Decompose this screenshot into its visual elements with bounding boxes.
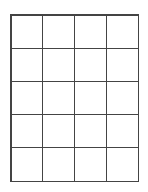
grid-cell <box>11 48 44 82</box>
grid-cell <box>11 147 44 181</box>
grid-cell <box>42 147 75 181</box>
grid-cell <box>106 81 139 115</box>
grid-cell <box>106 147 139 181</box>
grid-cell <box>106 114 139 148</box>
grid-cell <box>74 15 107 49</box>
grid-cell <box>106 15 139 49</box>
grid-cell <box>11 114 44 148</box>
grid-cell <box>42 48 75 82</box>
grid-cell <box>42 81 75 115</box>
grid-cell <box>42 114 75 148</box>
grid-cell <box>74 81 107 115</box>
empty-grid <box>10 14 139 182</box>
grid-cell <box>74 114 107 148</box>
grid-cell <box>11 15 44 49</box>
grid-cell <box>74 147 107 181</box>
grid-cell <box>11 81 44 115</box>
grid-cell <box>42 15 75 49</box>
grid-cell <box>74 48 107 82</box>
grid-cell <box>106 48 139 82</box>
